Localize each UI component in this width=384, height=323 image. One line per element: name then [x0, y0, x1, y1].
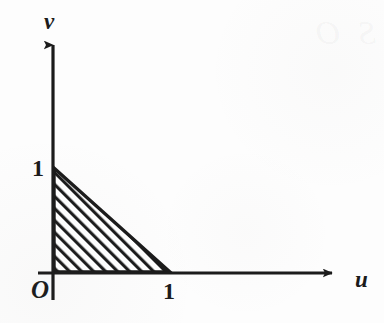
origin-label: O: [31, 277, 49, 302]
shaded-region-group: [54, 168, 170, 272]
v-axis-tick-label-1: 1: [32, 156, 44, 180]
v-axis-label: v: [44, 10, 54, 33]
figure-canvas: S O v u O 1: [0, 0, 384, 323]
u-axis-tick-label-1: 1: [163, 279, 175, 303]
uv-plane-diagram: [0, 0, 384, 323]
u-axis-label: u: [355, 268, 368, 291]
